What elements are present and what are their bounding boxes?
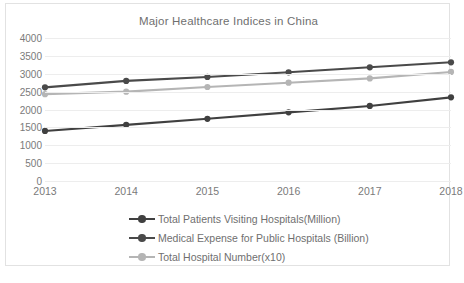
gridline [45,163,451,164]
legend-key-dot [138,253,146,261]
data-point-marker [204,116,210,122]
gridline [45,74,451,75]
legend-item[interactable]: Total Hospital Number(x10) [6,247,451,266]
gridline [45,110,451,111]
data-point-marker [123,78,129,84]
series-line [45,97,451,131]
gridline [45,145,451,146]
data-point-marker [367,64,373,70]
plot-area [45,38,451,181]
gridline [45,181,451,182]
series-line [45,62,451,87]
chart-title: Major Healthcare Indices in China [6,15,451,27]
x-axis-tick-label: 2014 [115,185,138,197]
data-point-marker [204,74,210,80]
gridline [45,92,451,93]
x-axis-tick-label: 2015 [196,185,219,197]
x-axis-tick-label: 2018 [439,185,462,197]
data-point-marker [42,84,48,90]
y-axis-tick-label: 3000 [20,68,42,79]
data-point-marker [204,84,210,90]
legend-key-dot [138,215,146,223]
y-axis-tick-label: 3500 [20,50,42,61]
y-axis-tick-label: 1500 [20,122,42,133]
x-axis-tick-label: 2016 [277,185,300,197]
data-point-marker [448,59,454,65]
legend-marker-icon [129,252,155,262]
chart-legend: Total Patients Visiting Hospitals(Millio… [6,209,451,266]
legend-item-label: Medical Expense for Public Hospitals (Bi… [158,232,369,244]
legend-item-label: Total Patients Visiting Hospitals(Millio… [158,213,340,225]
gridline [45,127,451,128]
legend-item-label: Total Hospital Number(x10) [158,251,285,263]
footer-note [3,272,203,282]
legend-marker-icon [129,233,155,243]
y-axis-tick-label: 4000 [20,33,42,44]
chart-container: Major Healthcare Indices in China 400035… [5,3,450,266]
legend-key-dot [138,234,146,242]
data-point-marker [448,94,454,100]
x-axis: 201320142015201620172018 [6,183,451,201]
y-axis: 40003500300025002000150010005000 [6,38,42,181]
legend-item[interactable]: Total Patients Visiting Hospitals(Millio… [6,209,451,228]
gridline [45,38,451,39]
y-axis-tick-label: 1000 [20,140,42,151]
y-axis-tick-label: 500 [25,158,42,169]
data-point-marker [42,128,48,134]
x-axis-tick-label: 2013 [33,185,56,197]
legend-item[interactable]: Medical Expense for Public Hospitals (Bi… [6,228,451,247]
data-point-marker [367,103,373,109]
gridline [45,56,451,57]
y-axis-tick-label: 2000 [20,104,42,115]
data-point-marker [367,75,373,81]
legend-marker-icon [129,214,155,224]
x-axis-tick-label: 2017 [358,185,381,197]
y-axis-tick-label: 2500 [20,86,42,97]
data-point-marker [286,80,292,86]
